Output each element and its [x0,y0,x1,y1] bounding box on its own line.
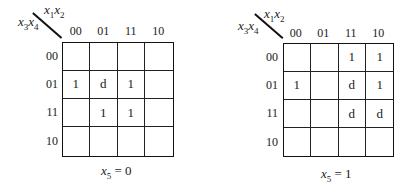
kmap-grid: 1 1 1 d 1 d d [283,43,394,157]
column-label: 11 [117,24,145,39]
cell [284,100,312,128]
cell [118,127,146,155]
cell [145,43,173,71]
column-label: 00 [282,26,310,41]
cell [63,43,91,71]
cell [339,128,367,156]
cell [145,71,173,99]
cell [90,43,118,71]
cell: d [339,100,367,128]
column-variables-label: x1x2 [264,6,285,24]
cell [311,128,339,156]
kmap-x5-0: x1x2 x3x4 00 01 11 10 00 01 11 10 1 d 1 … [0,0,200,188]
cell: 1 [366,44,394,72]
cell: 1 [118,71,146,99]
cell: 1 [90,99,118,127]
column-label: 11 [337,26,365,41]
column-label: 01 [90,24,118,39]
cell [63,127,91,155]
row-label: 00 [258,50,278,65]
cell [63,99,91,127]
row-label: 10 [38,134,58,149]
cell: 1 [284,72,312,100]
column-label: 10 [145,24,173,39]
cell: d [90,71,118,99]
cell [311,72,339,100]
column-variables-label: x1x2 [44,2,65,20]
cell: 1 [366,72,394,100]
cell: 1 [339,44,367,72]
cell [284,128,312,156]
cell: d [339,72,367,100]
cell: 1 [63,71,91,99]
map-caption: x5 = 0 [101,163,132,181]
cell [145,99,173,127]
column-label: 10 [365,26,393,41]
row-variables-label: x3x4 [18,14,39,32]
cell [118,43,146,71]
cell [311,100,339,128]
kmap-grid: 1 d 1 1 1 [62,42,174,157]
row-label: 00 [38,49,58,64]
cell: 1 [118,99,146,127]
row-label: 10 [258,135,278,150]
row-label: 11 [258,106,278,121]
row-label: 11 [38,105,58,120]
column-label: 00 [62,24,90,39]
row-variables-label: x3x4 [238,18,259,36]
map-caption: x5 = 1 [321,166,352,184]
cell: d [366,100,394,128]
row-label: 01 [258,78,278,93]
kmap-x5-1: x1x2 x3x4 00 01 11 10 00 01 11 10 1 1 1 … [207,0,407,188]
cell [366,128,394,156]
column-label: 01 [310,26,338,41]
cell [311,44,339,72]
cell [145,127,173,155]
row-label: 01 [38,77,58,92]
cell [284,44,312,72]
cell [90,127,118,155]
